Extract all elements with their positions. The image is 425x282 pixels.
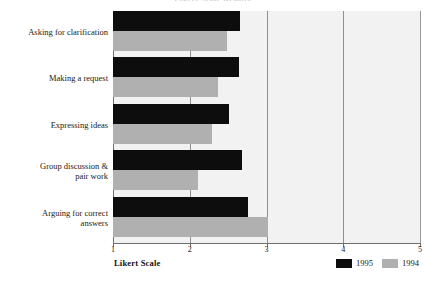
category-label: Group discussion &pair work xyxy=(0,161,108,181)
bar-chart: Likert Scale Results Likert Scale 1995 1… xyxy=(0,0,425,282)
bar-1995 xyxy=(113,150,242,170)
legend-item-1995: 1995 xyxy=(336,259,373,268)
legend-label-1994: 1994 xyxy=(402,259,419,268)
category-label: Expressing ideas xyxy=(0,120,108,130)
chart-legend: 1995 1994 xyxy=(336,259,419,268)
legend-label-1995: 1995 xyxy=(356,259,373,268)
bar-1994 xyxy=(113,31,227,51)
bar-1994 xyxy=(113,170,198,190)
legend-item-1994: 1994 xyxy=(382,259,419,268)
x-tick-label-4: 4 xyxy=(341,245,345,254)
bar-1995 xyxy=(113,197,248,217)
x-tick-label-2: 2 xyxy=(188,245,192,254)
legend-swatch-1995 xyxy=(336,259,352,268)
x-tick-label-5: 5 xyxy=(418,245,422,254)
bar-1994 xyxy=(113,124,212,144)
category-label: Asking for clarification xyxy=(0,27,108,37)
bar-1995 xyxy=(113,104,229,124)
category-label: Arguing for correctanswers xyxy=(0,208,108,228)
bar-1995 xyxy=(113,57,239,77)
legend-swatch-1994 xyxy=(382,259,398,268)
chart-title: Likert Scale Results xyxy=(0,0,425,1)
category-label: Making a request xyxy=(0,73,108,83)
x-axis-title: Likert Scale xyxy=(114,258,161,268)
x-tick-label-1: 1 xyxy=(111,245,115,254)
x-tick-label-3: 3 xyxy=(265,245,269,254)
bar-1994 xyxy=(113,77,218,97)
bar-1995 xyxy=(113,11,240,31)
bar-1994 xyxy=(113,217,268,237)
